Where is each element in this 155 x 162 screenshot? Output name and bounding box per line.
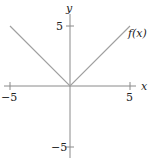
y-tick-label-neg5: −5: [51, 141, 67, 154]
x-tick-label-5: 5: [126, 91, 133, 104]
y-axis-label: y: [65, 2, 73, 15]
x-tick-label-neg5: −5: [1, 91, 17, 104]
x-axis-label: x: [141, 80, 148, 93]
plot: y x f(x) −5 5 5 −5: [0, 0, 155, 162]
y-tick-label-5: 5: [56, 20, 63, 33]
curve-label: f(x): [127, 27, 147, 40]
